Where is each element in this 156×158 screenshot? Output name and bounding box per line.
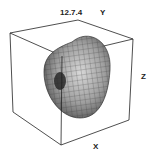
axis-label-z: Z bbox=[141, 72, 146, 81]
egg-surface bbox=[44, 36, 110, 118]
bounding-box bbox=[0, 0, 156, 158]
axis-label-y: Y bbox=[100, 8, 105, 17]
figure-title: 12.7.4 bbox=[60, 8, 82, 17]
axis-label-x: X bbox=[93, 142, 98, 151]
